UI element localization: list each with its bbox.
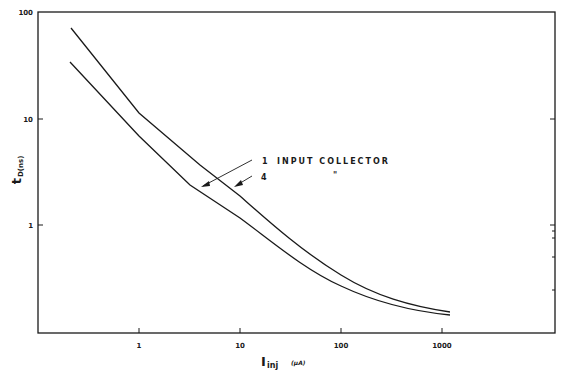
x-axis-title-unit: (μA) [291, 359, 306, 367]
x-tick-label-100: 100 [334, 342, 349, 350]
y-axis-ticks [38, 119, 43, 225]
x-axis-title-main: I [261, 354, 266, 369]
annotation-arrow-4 [234, 176, 252, 187]
x-axis-title-sub: inj [267, 361, 278, 370]
annotation-arrow-1 [201, 160, 252, 187]
legend-num-4: 4 [261, 173, 269, 182]
legend-text-4: " [333, 171, 339, 180]
y-axis-ticks-right [550, 119, 555, 290]
y-axis-title: t D(ns) [9, 156, 25, 185]
plot-frame [38, 12, 555, 333]
legend-num-1: 1 [262, 157, 270, 166]
legend-text-1: INPUT COLLECTOR [277, 157, 390, 166]
y-axis-title-main: t [9, 178, 24, 184]
y-tick-label-1: 1 [28, 222, 33, 230]
series-1-input-collector-line [70, 62, 450, 315]
x-axis-ticks [139, 328, 442, 333]
legend: 1 INPUT COLLECTOR 4 " [261, 157, 390, 182]
series-4-input-collector-line [71, 28, 450, 312]
x-tick-label-1: 1 [137, 342, 142, 350]
x-tick-label-1000: 1000 [432, 342, 452, 350]
y-axis-title-sub: D(ns) [17, 156, 25, 177]
chart-canvas: 100 10 1 1 10 100 1000 t D(ns) I inj (μA… [0, 0, 567, 376]
x-tick-label-10: 10 [235, 342, 245, 350]
y-tick-label-10: 10 [23, 116, 33, 124]
y-tick-label-100: 100 [18, 9, 33, 17]
